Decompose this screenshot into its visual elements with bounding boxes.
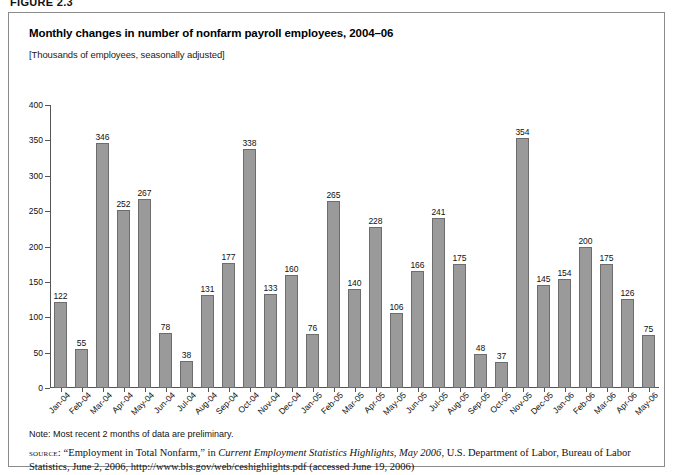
y-axis-line xyxy=(50,105,51,388)
bar-value-label: 252 xyxy=(116,199,130,209)
x-axis-tick-mark xyxy=(208,388,209,392)
bar: 76 xyxy=(306,334,318,388)
x-axis-tick-label: Aug-05 xyxy=(444,390,470,416)
bar: 38 xyxy=(180,361,192,388)
y-axis-tick-label: 50 xyxy=(34,348,43,358)
x-axis-tick-mark xyxy=(376,388,377,392)
bar-value-label: 177 xyxy=(221,252,235,262)
bar: 48 xyxy=(474,354,486,388)
y-axis-tick-mark xyxy=(45,388,50,389)
bar-value-label: 131 xyxy=(200,284,214,294)
bar: 106 xyxy=(390,313,402,388)
bar-value-label: 241 xyxy=(431,207,445,217)
y-axis-tick-mark xyxy=(45,353,50,354)
bar: 228 xyxy=(369,227,381,388)
x-axis-tick-mark xyxy=(292,388,293,392)
y-axis-tick-label: 250 xyxy=(29,206,43,216)
x-axis-tick-mark xyxy=(82,388,83,392)
x-axis-tick-mark xyxy=(229,388,230,392)
x-axis-tick-mark xyxy=(523,388,524,392)
x-axis-tick-mark xyxy=(103,388,104,392)
x-axis-tick-mark xyxy=(628,388,629,392)
bar: 122 xyxy=(54,302,66,388)
bar: 354 xyxy=(516,138,528,388)
bar-value-label: 126 xyxy=(620,288,634,298)
bar-value-label: 265 xyxy=(326,190,340,200)
x-axis-tick-mark xyxy=(355,388,356,392)
bar: 338 xyxy=(243,149,255,388)
bar: 200 xyxy=(579,247,591,389)
bar-value-label: 76 xyxy=(308,323,317,333)
y-axis-tick-label: 0 xyxy=(38,383,43,393)
x-axis-tick-mark xyxy=(187,388,188,392)
x-axis-tick-mark xyxy=(481,388,482,392)
bar: 75 xyxy=(642,335,654,388)
bar: 145 xyxy=(537,285,549,388)
bar: 175 xyxy=(453,264,465,388)
bar-value-label: 200 xyxy=(578,236,592,246)
bar-value-label: 106 xyxy=(389,302,403,312)
x-axis-tick-label: Feb-05 xyxy=(318,390,344,416)
x-axis-tick-label: Sep-04 xyxy=(213,390,239,416)
bar-value-label: 145 xyxy=(536,274,550,284)
bar-value-label: 48 xyxy=(476,343,485,353)
bar-value-label: 160 xyxy=(284,264,298,274)
x-axis-tick-mark xyxy=(61,388,62,392)
y-axis-tick-mark xyxy=(45,247,50,248)
x-axis-tick-label: Aug-04 xyxy=(192,390,218,416)
bar-value-label: 338 xyxy=(242,138,256,148)
y-axis-tick-label: 400 xyxy=(29,100,43,110)
x-axis-tick-mark xyxy=(145,388,146,392)
bar: 267 xyxy=(138,199,150,388)
x-axis-tick-label: Jan-05 xyxy=(298,390,323,415)
figure-label: FIGURE 2.3 xyxy=(10,0,73,8)
x-axis-tick-label: Dec-04 xyxy=(276,390,302,416)
bar: 175 xyxy=(600,264,612,388)
x-axis-tick-mark xyxy=(649,388,650,392)
y-axis-tick-label: 150 xyxy=(29,277,43,287)
source-tag-label: source: xyxy=(29,447,61,458)
x-axis-tick-mark xyxy=(502,388,503,392)
bar: 140 xyxy=(348,289,360,388)
x-axis-tick-mark xyxy=(418,388,419,392)
bar-value-label: 122 xyxy=(53,291,67,301)
bar-value-label: 154 xyxy=(557,268,571,278)
bar: 55 xyxy=(75,349,87,388)
bar: 37 xyxy=(495,362,507,388)
bar-value-label: 175 xyxy=(599,253,613,263)
bar-value-label: 38 xyxy=(182,350,191,360)
y-axis-tick-mark xyxy=(45,140,50,141)
chart-title: Monthly changes in number of nonfarm pay… xyxy=(29,27,393,39)
x-axis-tick-mark xyxy=(460,388,461,392)
y-axis-tick-mark xyxy=(45,176,50,177)
chart-subtitle: [Thousands of employees, seasonally adju… xyxy=(29,49,225,60)
figure-container: Monthly changes in number of nonfarm pay… xyxy=(8,12,665,467)
x-axis-tick-mark xyxy=(166,388,167,392)
bar: 252 xyxy=(117,210,129,388)
y-axis-tick-mark xyxy=(45,211,50,212)
bar: 154 xyxy=(558,279,570,388)
x-axis-tick-mark xyxy=(250,388,251,392)
x-axis-tick-mark xyxy=(124,388,125,392)
bar-value-label: 37 xyxy=(497,351,506,361)
x-axis-tick-label: Jun-05 xyxy=(403,390,428,415)
x-axis-tick-mark xyxy=(397,388,398,392)
bar-value-label: 133 xyxy=(263,283,277,293)
x-axis-tick-mark xyxy=(313,388,314,392)
bar-value-label: 166 xyxy=(410,260,424,270)
bar: 241 xyxy=(432,218,444,389)
y-axis-tick-label: 300 xyxy=(29,171,43,181)
bar-value-label: 175 xyxy=(452,253,466,263)
chart-source: source: “Employment in Total Nonfarm,” i… xyxy=(29,446,659,474)
x-axis-tick-label: Dec-05 xyxy=(528,390,554,416)
bar: 166 xyxy=(411,271,423,388)
x-axis-tick-mark xyxy=(586,388,587,392)
bar-value-label: 267 xyxy=(137,188,151,198)
bar: 78 xyxy=(159,333,171,388)
x-axis-tick-label: Mar-05 xyxy=(339,390,365,416)
bar: 265 xyxy=(327,201,339,388)
x-axis-tick-mark xyxy=(565,388,566,392)
bar-value-label: 354 xyxy=(515,127,529,137)
x-axis-tick-mark xyxy=(334,388,335,392)
chart-note: Note: Most recent 2 months of data are p… xyxy=(29,429,233,439)
